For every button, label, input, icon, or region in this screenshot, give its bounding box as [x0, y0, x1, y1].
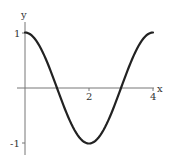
y-tick-label-1: 1	[14, 28, 20, 39]
chart: y x 2 4 1 -1	[0, 0, 170, 166]
x-tick-label-2: 2	[86, 91, 92, 102]
y-axis-label: y	[20, 9, 27, 20]
x-axis-label: x	[157, 83, 163, 94]
x-tick-label-4: 4	[150, 91, 156, 102]
chart-canvas: y x 2 4 1 -1	[0, 0, 170, 166]
y-tick-label-m1: -1	[10, 138, 20, 149]
